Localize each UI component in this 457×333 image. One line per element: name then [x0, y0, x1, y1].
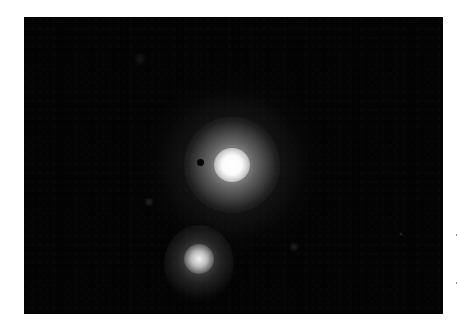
primary-core [214, 148, 250, 182]
faint-speck [134, 52, 146, 66]
faint-speck [399, 232, 403, 236]
secondary-core [184, 244, 214, 274]
astronomical-image [24, 17, 443, 314]
faint-speck [144, 197, 154, 207]
faint-speck [289, 242, 299, 252]
dark-spot [197, 159, 204, 166]
